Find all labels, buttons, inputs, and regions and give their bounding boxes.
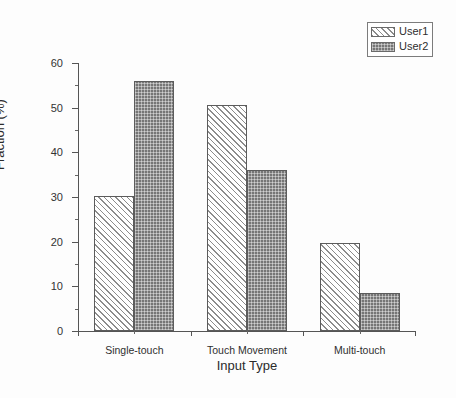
x-category-label: Multi-touch	[334, 345, 385, 356]
x-category-label: Single-touch	[105, 345, 163, 356]
y-tick-major: 60	[72, 63, 78, 64]
y-tick-label: 40	[51, 147, 63, 158]
x-tick-major	[191, 331, 192, 336]
y-tick-label: 0	[57, 326, 63, 337]
y-axis-title: Fraction (%)	[0, 99, 7, 170]
y-tick-major: 50	[72, 108, 78, 109]
y-tick-major: 20	[72, 242, 78, 243]
y-tick-major: 30	[72, 197, 78, 198]
legend-swatch-user1	[371, 27, 395, 37]
y-tick-minor	[75, 264, 78, 265]
bar-user2-touch-movement	[247, 170, 287, 331]
y-tick-label: 10	[51, 281, 63, 292]
bar-user2-multi-touch	[360, 293, 400, 331]
y-tick-label: 30	[51, 192, 63, 203]
legend-label-user1: User1	[399, 26, 428, 37]
plot-area: 0102030405060 Single-touchTouch Movement…	[78, 63, 416, 331]
x-axis-title: Input Type	[78, 358, 416, 373]
y-tick-label: 60	[51, 58, 63, 69]
y-tick-minor	[75, 309, 78, 310]
legend-item-user2: User2	[371, 40, 428, 53]
x-tick-minor	[247, 331, 248, 334]
y-tick-minor	[75, 130, 78, 131]
y-tick-major: 40	[72, 152, 78, 153]
y-axis-line	[78, 63, 79, 331]
bar-user2-single-touch	[134, 81, 174, 331]
x-tick-major	[303, 331, 304, 336]
x-category-label: Touch Movement	[207, 345, 287, 356]
x-tick-major	[415, 331, 416, 336]
bar-user1-touch-movement	[207, 105, 247, 331]
y-tick-label: 50	[51, 102, 63, 113]
chart-figure: User1 User2 Fraction (%) 0102030405060 S…	[0, 0, 456, 398]
y-tick-minor	[75, 219, 78, 220]
legend-swatch-user2	[371, 42, 395, 52]
bar-user1-multi-touch	[320, 243, 360, 331]
chart-legend: User1 User2	[367, 22, 433, 57]
bar-user1-single-touch	[94, 196, 134, 331]
y-tick-major: 10	[72, 286, 78, 287]
y-tick-minor	[75, 175, 78, 176]
x-tick-minor	[360, 331, 361, 334]
x-tick-minor	[134, 331, 135, 334]
legend-item-user1: User1	[371, 25, 428, 38]
y-tick-minor	[75, 85, 78, 86]
x-tick-major	[78, 331, 79, 336]
y-tick-label: 20	[51, 236, 63, 247]
legend-label-user2: User2	[399, 41, 428, 52]
